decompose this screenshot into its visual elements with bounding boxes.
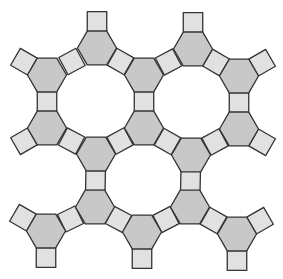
tiling-diagram — [0, 0, 283, 279]
square-tile — [229, 93, 249, 113]
square-tile — [227, 251, 247, 271]
square-tile — [36, 248, 56, 268]
square-tile — [87, 12, 107, 32]
square-tile — [37, 92, 57, 112]
square-tile — [181, 171, 201, 191]
square-tile — [183, 13, 203, 33]
square-tile — [86, 171, 106, 191]
square-tile — [132, 249, 152, 269]
square-tile — [134, 92, 154, 112]
